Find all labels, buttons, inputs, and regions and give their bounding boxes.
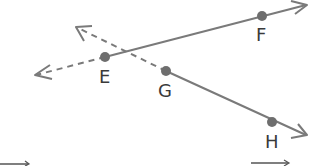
line-ef-dashed-segment xyxy=(36,57,105,75)
line-ef-solid-segment xyxy=(105,5,306,57)
line-gh-solid-segment xyxy=(166,71,306,135)
line-gh-dashed-segment xyxy=(76,27,166,71)
point-g xyxy=(161,66,171,76)
label-e: E xyxy=(99,66,110,87)
label-h: H xyxy=(265,131,279,152)
geometry-diagram: E F G H xyxy=(0,0,318,166)
line-gh-left-arrowhead-icon xyxy=(76,26,92,41)
label-f: F xyxy=(256,24,266,45)
point-h xyxy=(267,117,277,127)
point-e xyxy=(100,52,110,62)
point-f xyxy=(257,11,267,21)
diagram-canvas: E F G H xyxy=(0,0,318,166)
label-g: G xyxy=(158,80,172,101)
